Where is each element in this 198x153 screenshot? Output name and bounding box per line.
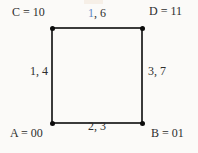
vertex-dot-c — [50, 26, 55, 31]
edge-label-top-rest: , 6 — [94, 6, 106, 20]
edge-top-line — [52, 27, 142, 29]
vertex-label-c: C = 10 — [12, 6, 45, 19]
vertex-label-a: A = 00 — [10, 127, 43, 140]
vertex-label-b: B = 01 — [151, 127, 184, 140]
edge-right-line — [141, 28, 143, 123]
edge-label-right: 3, 7 — [148, 65, 166, 78]
vertex-dot-d — [140, 26, 145, 31]
vertex-label-d: D = 11 — [149, 5, 182, 18]
scan-artifact — [84, 0, 103, 4]
edge-left-line — [51, 28, 53, 123]
edge-label-left: 1, 4 — [20, 65, 48, 78]
edge-label-bottom: 2, 3 — [52, 120, 142, 133]
graph-diagram: C = 10 D = 11 A = 00 B = 01 1, 6 1, 4 3,… — [0, 0, 198, 153]
edge-label-top: 1, 6 — [52, 7, 142, 20]
